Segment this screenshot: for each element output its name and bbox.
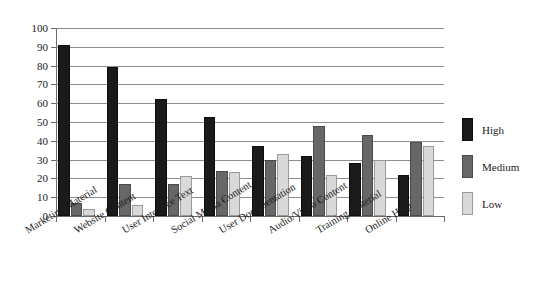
bar-medium <box>410 142 422 216</box>
y-axis-tick-label: 30 <box>37 154 48 165</box>
y-axis-tick-label: 60 <box>37 98 48 109</box>
legend-item-medium[interactable]: Medium <box>462 155 519 178</box>
bar-chart: 0102030405060708090100 Marketing Materia… <box>0 0 539 303</box>
bar-high <box>107 67 119 216</box>
legend-item-high[interactable]: High <box>462 118 504 141</box>
y-axis-tick-label: 70 <box>37 79 48 90</box>
x-axis-tick-mark <box>444 217 445 222</box>
y-axis-tick-label: 100 <box>32 23 49 34</box>
y-axis-tick-label: 90 <box>37 41 48 52</box>
legend-label-low: Low <box>482 198 502 210</box>
bar-group <box>347 28 396 216</box>
legend-swatch-medium <box>462 155 473 178</box>
y-axis-tick-label: 50 <box>37 117 48 128</box>
y-axis-tick-label: 10 <box>37 192 48 203</box>
legend-swatch-high <box>462 118 473 141</box>
legend-label-high: High <box>482 124 504 136</box>
bar-group <box>56 28 105 216</box>
y-axis-tick-label: 40 <box>37 135 48 146</box>
bar-low <box>423 146 435 217</box>
bar-group <box>105 28 154 216</box>
bar-group <box>396 28 445 216</box>
legend-swatch-low <box>462 192 473 215</box>
legend-label-medium: Medium <box>482 161 519 173</box>
y-axis-tick-label: 80 <box>37 60 48 71</box>
y-axis-tick-label: 20 <box>37 173 48 184</box>
bar-high <box>58 45 70 216</box>
bar-group <box>153 28 202 216</box>
legend-item-low[interactable]: Low <box>462 192 502 215</box>
